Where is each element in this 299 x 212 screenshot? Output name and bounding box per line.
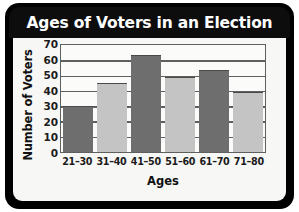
bar-61–70 — [199, 70, 229, 152]
y-tick-label: 40 — [43, 85, 58, 96]
bar-series — [61, 45, 264, 151]
x-tick-label: 71–80 — [232, 156, 266, 167]
bar-71–80 — [233, 92, 263, 151]
x-tick-label: 21–30 — [60, 156, 94, 167]
y-tick-label: 50 — [43, 70, 58, 81]
y-tick-label: 0 — [51, 148, 58, 159]
y-axis-tick-labels: 706050403020100 — [31, 44, 58, 153]
chart-card: Number of Voters 706050403020100 21–3031… — [13, 38, 286, 201]
bar-slot — [197, 45, 231, 151]
bar-slot — [129, 45, 163, 151]
bar-slot — [61, 45, 95, 151]
x-axis-tick-labels: 21–3031–4041–5051–6061–7071–80 — [60, 156, 266, 167]
bar-51–60 — [165, 77, 195, 151]
plot-region — [60, 44, 266, 153]
y-tick-label: 70 — [43, 39, 58, 50]
bar-slot — [163, 45, 197, 151]
bar-21–30 — [63, 106, 93, 152]
y-tick-label: 10 — [43, 132, 58, 143]
y-tick-label: 30 — [43, 101, 58, 112]
x-tick-label: 51–60 — [163, 156, 197, 167]
chart-title-banner: Ages of Voters in an Election — [9, 7, 290, 38]
bar-31–40 — [97, 83, 127, 151]
figure-inner: Ages of Voters in an Election Number of … — [9, 7, 290, 205]
y-tick-label: 60 — [43, 54, 58, 65]
x-tick-label: 31–40 — [94, 156, 128, 167]
bar-41–50 — [131, 55, 161, 152]
chart-figure: Ages of Voters in an Election Number of … — [5, 3, 294, 209]
bar-slot — [95, 45, 129, 151]
bar-slot — [231, 45, 265, 151]
x-tick-label: 41–50 — [129, 156, 163, 167]
x-tick-label: 61–70 — [197, 156, 231, 167]
chart-title: Ages of Voters in an Election — [27, 14, 273, 32]
y-tick-label: 20 — [43, 117, 58, 128]
x-axis-title: Ages — [60, 174, 266, 188]
